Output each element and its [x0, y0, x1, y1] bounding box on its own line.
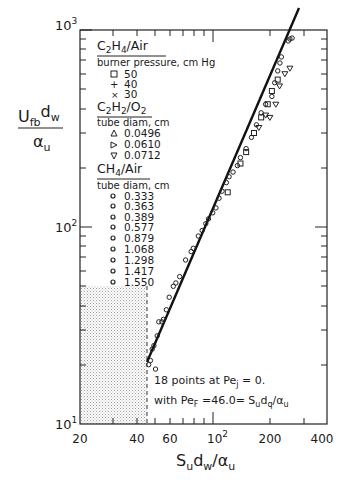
y-axis-label: Ufbdw αu: [18, 102, 63, 154]
x-tick-label-100: 102: [207, 429, 228, 446]
circle-marker-icons: [111, 194, 115, 284]
data-point: [177, 274, 181, 278]
x-tick-label-20: 20: [72, 432, 87, 446]
legend-group-c2h2-o2: C2H2/O2 tube diam, cm 0.0496 0.0610 0.07…: [97, 99, 170, 161]
svg-text:CH4/Air: CH4/Air: [97, 161, 143, 178]
y-tick-label-10: 101: [55, 415, 77, 432]
shaded-region: [80, 286, 147, 424]
svg-text:C2H4/Air: C2H4/Air: [97, 38, 149, 55]
y-tick-label-100: 102: [55, 218, 77, 235]
data-point: [276, 69, 280, 73]
legend-group-c2h4-air: C2H4/Air burner pressure, cm Hg 50 + 40 …: [97, 38, 215, 100]
svg-text:18 points at Pej = 0.: 18 points at Pej = 0.: [154, 374, 265, 389]
data-point: [287, 66, 293, 71]
data-point: [259, 115, 264, 120]
data-points: [146, 36, 294, 371]
triangle-down-marker-icon: [111, 153, 117, 159]
data-point: [273, 102, 279, 107]
x-tick-label-60: 60: [162, 432, 177, 446]
legend-group-ch4-air: CH4/Air tube diam, cm 0.333 0.363 0.389 …: [97, 161, 170, 288]
x-tick-label-200: 200: [259, 432, 282, 446]
svg-text:0.0712: 0.0712: [124, 149, 161, 161]
data-point: [225, 190, 230, 195]
plus-marker-icon: +: [110, 79, 118, 90]
annotation: 18 points at Pej = 0. with PeF =46.0= Su…: [154, 374, 289, 409]
data-point: [231, 170, 235, 174]
data-point: [270, 94, 274, 98]
triangle-up-marker-icon: [111, 130, 117, 136]
svg-text:Ufbdw: Ufbdw: [18, 102, 60, 129]
data-point: [174, 281, 178, 285]
svg-text:C2H2/O2: C2H2/O2: [97, 99, 146, 116]
data-point: [267, 115, 273, 120]
legend: C2H4/Air burner pressure, cm Hg 50 + 40 …: [97, 38, 215, 288]
svg-text:with PeF =46.0= Sudq/αu: with PeF =46.0= Sudq/αu: [154, 394, 289, 409]
data-point: [183, 258, 187, 262]
data-point: [279, 55, 283, 59]
data-point: [238, 155, 242, 159]
data-point: [277, 84, 283, 89]
svg-text:1.550: 1.550: [124, 276, 154, 288]
data-point: [269, 89, 274, 94]
data-point: [251, 131, 256, 136]
x-axis-label: Sudw/αu: [176, 451, 235, 473]
data-point: [282, 72, 288, 77]
svg-text:αu: αu: [33, 132, 51, 154]
x-tick-label-400: 400: [311, 432, 334, 446]
chart: 103 102 101 20 40 60 102 200 400 Sudw/αu…: [0, 0, 353, 482]
data-point: [256, 125, 262, 130]
svg-text:burner pressure, cm Hg: burner pressure, cm Hg: [97, 57, 215, 68]
x-tick-label-40: 40: [129, 432, 144, 446]
data-point: [167, 295, 171, 299]
square-marker-icon: [111, 71, 117, 77]
y-tick-label-1000: 103: [55, 16, 77, 33]
data-point: [278, 61, 282, 65]
triangle-right-marker-icon: [111, 142, 117, 148]
data-point: [244, 146, 248, 150]
data-point: [164, 308, 168, 312]
data-point: [153, 367, 157, 371]
